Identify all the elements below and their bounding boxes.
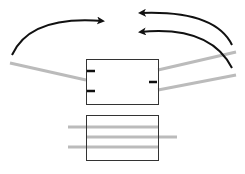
diagram-canvas: [0, 0, 245, 174]
component-boxes: [87, 60, 159, 161]
curved-arrow-left: [140, 13, 232, 45]
component-pins: [87, 71, 157, 91]
top-component-box: [87, 60, 159, 105]
connector-line: [10, 63, 86, 80]
connector-lines: [10, 52, 236, 147]
curved-arrow-right: [12, 20, 103, 55]
connector-line: [158, 75, 236, 90]
